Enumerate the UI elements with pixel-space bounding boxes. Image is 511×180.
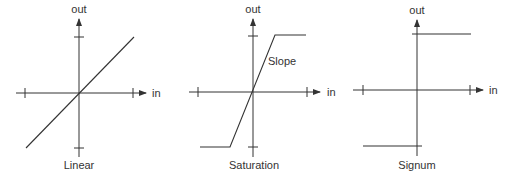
linear-panel: out in Linear bbox=[16, 3, 161, 171]
saturation-slope-annotation: Slope bbox=[268, 55, 296, 67]
signum-y-label: out bbox=[409, 4, 424, 16]
saturation-y-label: out bbox=[245, 3, 260, 15]
saturation-caption: Saturation bbox=[229, 159, 279, 171]
saturation-panel: Slope out in Saturation bbox=[189, 3, 336, 171]
signum-x-label: in bbox=[489, 84, 498, 96]
transfer-function-diagrams: out in Linear Slope out in Saturation ou… bbox=[0, 0, 511, 180]
saturation-x-label: in bbox=[327, 86, 336, 98]
signum-panel: out in Signum bbox=[353, 4, 498, 171]
linear-x-label: in bbox=[152, 87, 161, 99]
linear-y-label: out bbox=[71, 3, 86, 15]
signum-caption: Signum bbox=[398, 159, 435, 171]
linear-caption: Linear bbox=[64, 159, 95, 171]
